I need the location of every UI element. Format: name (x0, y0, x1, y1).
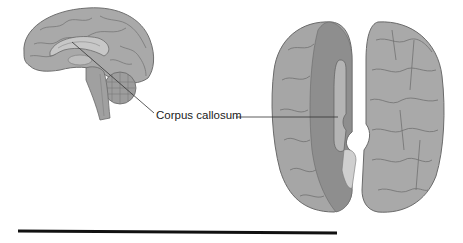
corpus-callosum-dorsal (334, 60, 346, 152)
brain-diagram (0, 0, 463, 243)
horizontal-rule (18, 231, 337, 233)
right-hemisphere (362, 22, 444, 212)
sagittal-brain (24, 8, 154, 120)
cerebellum (104, 72, 136, 104)
corpus-callosum-label: Corpus callosum (156, 109, 242, 121)
